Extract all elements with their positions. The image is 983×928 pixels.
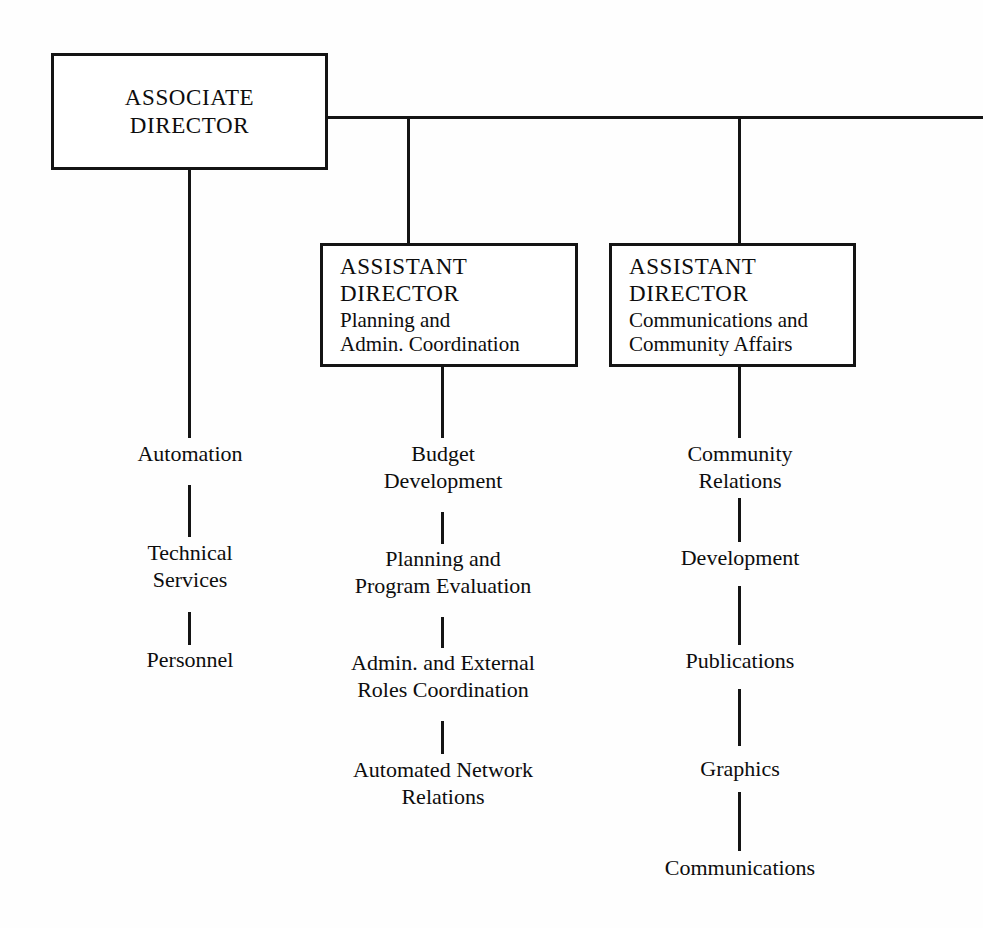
leaf-community-relations-line-1: Community [687,441,792,468]
leaf-development-line-1: Development [681,545,800,572]
leaf-technical-services-line-2: Services [147,567,232,594]
connector-planning-evaluation-to-admin-external [441,617,444,648]
connector-community-relations-to-development [738,498,741,542]
connector-admin-external-to-automated-network [441,721,444,754]
leaf-graphics-line-1: Graphics [700,756,779,783]
connector-bus-to-planning-box [407,116,410,243]
planning-title-line-1: ASSISTANT [340,253,468,280]
leaf-automated-network-relations-line-2: Relations [353,784,533,811]
node-associate-director: ASSOCIATE DIRECTOR [51,53,328,170]
leaf-technical-services-line-1: Technical [147,540,232,567]
leaf-community-relations-line-2: Relations [687,468,792,495]
connector-technical-services-to-personnel [188,612,191,645]
leaf-personnel: Personnel [147,647,234,674]
leaf-admin-external-roles-line-2: Roles Coordination [351,677,535,704]
leaf-planning-program-evaluation: Planning and Program Evaluation [355,546,532,599]
leaf-budget-development-line-1: Budget [384,441,503,468]
planning-title-line-2: DIRECTOR [340,280,459,307]
leaf-admin-external-roles-line-1: Admin. and External [351,650,535,677]
leaf-automated-network-relations: Automated Network Relations [353,757,533,810]
connector-development-to-publications [738,586,741,645]
leaf-automated-network-relations-line-1: Automated Network [353,757,533,784]
planning-sub-line-1: Planning and [340,308,450,333]
connector-communications-box-to-community-relations [738,367,741,438]
connector-graphics-to-communications [738,792,741,851]
horizontal-connector-bus [328,116,983,119]
leaf-publications-line-1: Publications [686,648,795,675]
leaf-budget-development-line-2: Development [384,468,503,495]
leaf-development: Development [681,545,800,572]
leaf-publications: Publications [686,648,795,675]
org-chart: ASSOCIATE DIRECTOR ASSISTANT DIRECTOR Pl… [0,0,983,928]
node-assistant-director-communications: ASSISTANT DIRECTOR Communications and Co… [609,243,856,367]
communications-title-line-2: DIRECTOR [629,280,748,307]
leaf-personnel-line-1: Personnel [147,647,234,674]
communications-title-line-1: ASSISTANT [629,253,757,280]
leaf-budget-development: Budget Development [384,441,503,494]
leaf-graphics: Graphics [700,756,779,783]
connector-bus-to-communications-box [738,116,741,243]
connector-associate-to-automation [188,170,191,438]
connector-planning-box-to-budget [441,367,444,438]
leaf-automation: Automation [137,441,242,468]
leaf-planning-program-evaluation-line-2: Program Evaluation [355,573,532,600]
communications-sub-line-1: Communications and [629,308,808,333]
node-assistant-director-planning: ASSISTANT DIRECTOR Planning and Admin. C… [320,243,578,367]
connector-budget-to-planning-evaluation [441,512,444,544]
connector-publications-to-graphics [738,689,741,746]
leaf-admin-external-roles: Admin. and External Roles Coordination [351,650,535,703]
connector-automation-to-technical-services [188,485,191,537]
associate-director-title-line-1: ASSOCIATE [125,84,254,111]
planning-sub-line-2: Admin. Coordination [340,332,520,357]
associate-director-title-line-2: DIRECTOR [130,112,249,139]
leaf-technical-services: Technical Services [147,540,232,593]
leaf-community-relations: Community Relations [687,441,792,494]
leaf-communications: Communications [665,855,815,882]
leaf-communications-line-1: Communications [665,855,815,882]
leaf-planning-program-evaluation-line-1: Planning and [355,546,532,573]
communications-sub-line-2: Community Affairs [629,332,793,357]
leaf-automation-line-1: Automation [137,441,242,468]
